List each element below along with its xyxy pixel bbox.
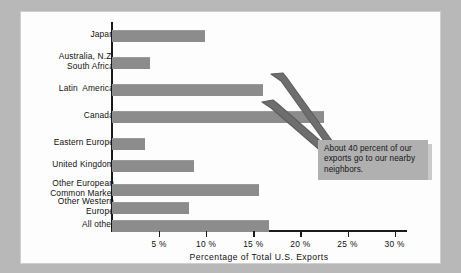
category-label: Canada — [84, 111, 114, 121]
bar — [112, 57, 150, 69]
bar — [112, 111, 324, 123]
x-tick-mark — [300, 231, 301, 237]
bar — [112, 184, 259, 196]
category-label: Eastern Europe — [54, 138, 114, 148]
x-tick-mark — [253, 231, 254, 237]
x-tick-label: 15 % — [243, 239, 263, 249]
category-label: United Kingdom — [52, 160, 114, 170]
annotation-line-2: exports go to our nearby — [324, 154, 423, 164]
bar — [112, 160, 194, 172]
x-tick-label: 20 % — [290, 239, 310, 249]
annotation-callout: About 40 percent of our exports go to ou… — [318, 140, 428, 180]
category-label: Japan — [90, 30, 114, 40]
figure-frame: JapanAustralia, N.Z. South AfricaLatin A… — [0, 0, 461, 273]
x-tick-mark — [348, 231, 349, 237]
x-tick-mark — [159, 231, 160, 237]
bar — [112, 30, 205, 42]
bar — [112, 202, 189, 214]
bar — [112, 138, 145, 150]
x-tick-mark — [395, 231, 396, 237]
x-tick-label: 5 % — [151, 239, 166, 249]
category-label: All other — [82, 220, 114, 230]
bar — [112, 84, 263, 96]
category-label: Australia, N.Z. South Africa — [59, 52, 114, 71]
x-tick-label: 25 % — [337, 239, 357, 249]
chart-panel: JapanAustralia, N.Z. South AfricaLatin A… — [21, 12, 440, 263]
annotation-line-3: neighbors. — [324, 165, 423, 175]
plot-area: JapanAustralia, N.Z. South AfricaLatin A… — [21, 12, 440, 263]
x-axis-title: Percentage of Total U.S. Exports — [111, 252, 407, 262]
x-tick-label: 10 % — [196, 239, 216, 249]
category-label: Latin America — [59, 84, 114, 94]
category-label: Other Western Europe — [58, 197, 114, 216]
x-tick-label: 30 % — [384, 239, 404, 249]
x-tick-mark — [206, 231, 207, 237]
annotation-line-1: About 40 percent of our — [324, 144, 423, 154]
bar — [112, 220, 269, 232]
